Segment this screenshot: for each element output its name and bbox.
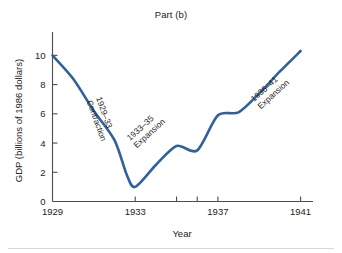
x-tick-label: 1929 [42, 206, 63, 217]
annotation-expansion-1936-41: 1936–41Expansion [249, 70, 292, 111]
y-tick-label: 2 [40, 167, 45, 178]
x-tick-label: 1937 [207, 206, 228, 217]
y-tick-label: 6 [40, 108, 45, 119]
annotation-expansion-1933-35: 1933–35Expansion [125, 109, 168, 150]
figure-panel: Part (b) GDP (billions of 1986 dollars) … [0, 0, 342, 253]
x-tick-label: 1941 [290, 206, 311, 217]
x-axis-ticks: 1929193319371941 [42, 197, 311, 217]
y-axis-ticks: 0246810 [35, 50, 58, 207]
plot-area: 0246810 1929193319371941 1929–33Contract… [0, 0, 342, 253]
gdp-data-line [53, 51, 301, 187]
y-tick-label: 4 [40, 138, 45, 149]
y-tick-label: 10 [35, 50, 46, 61]
annotations-group: 1929–33Contraction1933–35Expansion1936–4… [85, 70, 292, 150]
data-series-group [53, 51, 301, 187]
x-tick-label: 1933 [125, 206, 146, 217]
y-tick-label: 8 [40, 79, 45, 90]
